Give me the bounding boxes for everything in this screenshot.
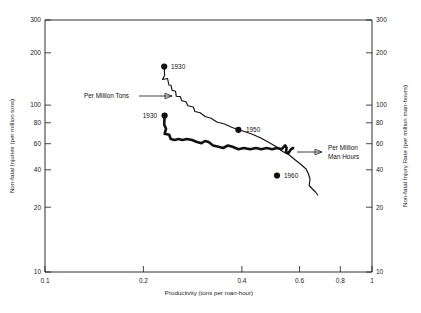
annotation-label-per-million-man-hours-line1: Per Million (328, 144, 358, 151)
data-label-1950: 1950 (246, 126, 261, 133)
x-axis-title: Productivity (tons per man-hour) (165, 289, 253, 296)
right-tick-200: 200 (376, 49, 387, 56)
right-tick-40: 40 (376, 166, 384, 173)
injury-productivity-chart: 300 200 100 80 60 40 20 10 300 200 100 8… (0, 0, 421, 313)
right-tick-100: 100 (376, 101, 387, 108)
data-label-1960: 1960 (284, 172, 299, 179)
right-tick-80: 80 (376, 119, 384, 126)
left-tick-80: 80 (34, 119, 42, 126)
y-axis-title-left: Non-fatal Injuries (per million tons) (8, 99, 15, 193)
marker-1930-lower (162, 112, 168, 118)
data-label-1930-upper: 1930 (171, 63, 186, 70)
left-axis-ticks (45, 20, 51, 272)
figure-container: 300 200 100 80 60 40 20 10 300 200 100 8… (0, 0, 421, 313)
left-tick-40: 40 (34, 166, 42, 173)
x-tick-0-6: 0.6 (295, 277, 304, 284)
bottom-axis-tick-labels: 0.1 0.2 0.4 0.6 0.8 1 (40, 277, 374, 284)
plot-frame (45, 20, 372, 272)
x-tick-1: 1 (370, 277, 374, 284)
left-tick-100: 100 (30, 101, 41, 108)
marker-1950 (235, 127, 241, 133)
annotation-per-million-man-hours: Per Million Man Hours (297, 144, 359, 160)
left-tick-60: 60 (34, 140, 42, 147)
right-axis-tick-labels: 300 200 100 80 60 40 20 10 (376, 16, 387, 275)
left-tick-300: 300 (30, 16, 41, 23)
x-tick-0-8: 0.8 (336, 277, 345, 284)
annotation-label-per-million-man-hours-line2: Man Hours (328, 153, 359, 160)
right-tick-300: 300 (376, 16, 387, 23)
annotation-label-per-million-tons: Per Million Tons (84, 92, 129, 99)
y-axis-title-right: Non-fatal Injury Rate (per million man-h… (401, 85, 408, 207)
x-tick-0-4: 0.4 (237, 277, 246, 284)
left-tick-20: 20 (34, 204, 42, 211)
left-tick-200: 200 (30, 49, 41, 56)
x-tick-0-1: 0.1 (40, 277, 49, 284)
left-tick-10: 10 (34, 268, 42, 275)
bottom-axis-ticks (45, 266, 372, 272)
annotation-per-million-tons: Per Million Tons (84, 92, 172, 99)
x-tick-0-2: 0.2 (139, 277, 148, 284)
marker-1960 (274, 172, 280, 178)
left-axis-tick-labels: 300 200 100 80 60 40 20 10 (30, 16, 41, 275)
right-tick-10: 10 (376, 268, 384, 275)
data-label-1930-lower: 1930 (143, 112, 158, 119)
right-tick-60: 60 (376, 140, 384, 147)
marker-1930-upper (161, 63, 167, 69)
right-tick-20: 20 (376, 204, 384, 211)
right-axis-ticks (366, 20, 372, 272)
series-per-million-man-hours (162, 112, 294, 153)
